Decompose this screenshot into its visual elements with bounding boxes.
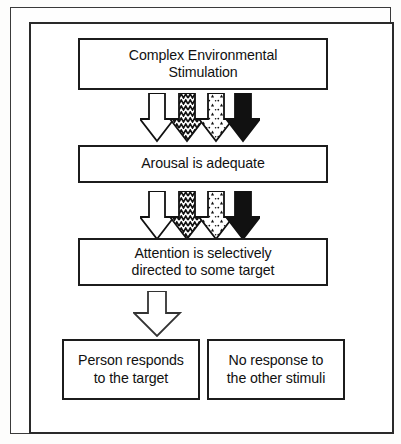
box-stimulation-line1: Complex Environmental: [125, 47, 282, 64]
arrow-group-arousal-to-attention: [140, 191, 260, 241]
box-noresponse-line1: No response to: [223, 352, 329, 369]
arrow-down-speckled-2: [199, 191, 233, 239]
box-noresponse-text: No response to the other stimuli: [219, 352, 333, 387]
box-attention-line2: directed to some target: [128, 262, 279, 279]
arrow-down-outline-large: [133, 291, 189, 337]
box-attention-line1: Attention is selectively: [128, 245, 279, 262]
box-responds-text: Person responds to the target: [70, 352, 192, 387]
arrow-down-solid-2: [226, 191, 260, 239]
box-attention-text: Attention is selectively directed to som…: [124, 245, 283, 280]
arrow-down-outline-1: [140, 93, 174, 141]
arrow-group-stimulation-to-arousal: [140, 93, 260, 143]
diagram-page: Complex Environmental Stimulation: [0, 0, 401, 444]
arrow-down-zigzag-1: [170, 93, 204, 141]
box-responds-line2: to the target: [74, 370, 188, 387]
box-stimulation-line2: Stimulation: [125, 64, 282, 81]
box-complex-environmental-stimulation: Complex Environmental Stimulation: [78, 38, 328, 90]
box-stimulation-text: Complex Environmental Stimulation: [121, 47, 286, 82]
arrow-down-zigzag-2: [170, 191, 204, 239]
box-arousal-text: Arousal is adequate: [137, 155, 269, 172]
box-arousal-is-adequate: Arousal is adequate: [78, 145, 328, 183]
box-attention-directed: Attention is selectively directed to som…: [78, 238, 328, 286]
arrow-down-solid-1: [226, 93, 260, 141]
box-noresponse-line2: the other stimuli: [223, 370, 329, 387]
box-no-response: No response to the other stimuli: [207, 339, 345, 400]
arrow-down-outline-2: [140, 191, 174, 239]
box-person-responds: Person responds to the target: [62, 339, 200, 400]
box-responds-line1: Person responds: [74, 352, 188, 369]
arrow-down-speckled-1: [199, 93, 233, 141]
